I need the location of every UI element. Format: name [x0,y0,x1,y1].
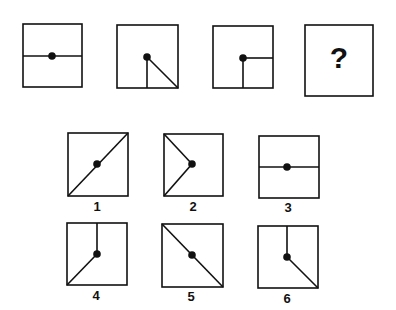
option-2[interactable] [164,134,223,196]
option-5[interactable] [162,224,223,287]
option-4[interactable] [67,223,127,285]
option-label-2: 2 [183,199,203,214]
option-label-6: 6 [277,291,297,306]
option-label-4: 4 [86,288,106,303]
sequence-box-2 [117,25,178,88]
option-6[interactable] [258,226,318,288]
option-3[interactable] [259,136,319,198]
option-label-1: 1 [87,199,107,214]
sequence-box-1 [23,24,82,87]
option-label-5: 5 [181,289,201,304]
option-1[interactable] [68,133,128,196]
sequence-box-3 [213,26,273,88]
option-label-3: 3 [278,200,298,215]
question-mark: ? [319,41,359,75]
